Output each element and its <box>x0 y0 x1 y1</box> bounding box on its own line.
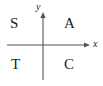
y-axis-arrowhead-icon <box>40 12 45 18</box>
quadrant-label-bottom-left: T <box>11 57 20 72</box>
y-axis-label: y <box>36 2 40 12</box>
x-axis-arrowhead-icon <box>84 42 90 47</box>
quadrant-label-top-left: S <box>10 16 18 31</box>
quadrant-label-top-right: A <box>64 16 75 31</box>
coordinate-axes <box>0 0 103 86</box>
quadrant-sign-diagram: y x S A T C <box>0 0 103 86</box>
quadrant-label-bottom-right: C <box>64 57 74 72</box>
x-axis-label: x <box>93 39 97 49</box>
